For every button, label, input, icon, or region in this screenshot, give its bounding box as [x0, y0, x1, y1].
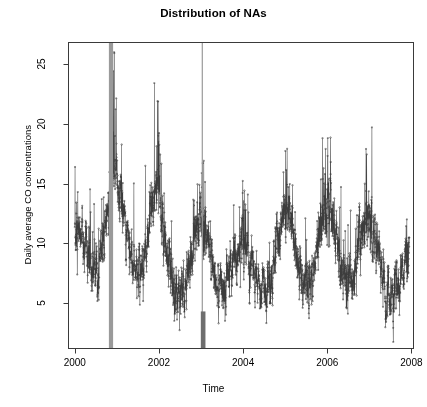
x-tick-label: 2002	[139, 358, 179, 368]
y-tick-label: 20	[37, 112, 47, 136]
x-axis-label: Time	[0, 384, 427, 394]
y-tick-label: 5	[37, 291, 47, 315]
y-axis-label: Daily average CO concentrations	[23, 85, 33, 305]
y-tick-label: 15	[37, 172, 47, 196]
x-tick-label: 2000	[55, 358, 95, 368]
chart-container: Distribution of NAs Time Daily average C…	[0, 0, 427, 407]
time-series-plot-canvas	[0, 0, 427, 407]
chart-title: Distribution of NAs	[0, 8, 427, 20]
y-tick-label: 10	[37, 231, 47, 255]
y-tick-label: 25	[37, 52, 47, 76]
x-tick-label: 2004	[223, 358, 263, 368]
x-tick-label: 2008	[391, 358, 427, 368]
x-tick-label: 2006	[307, 358, 347, 368]
